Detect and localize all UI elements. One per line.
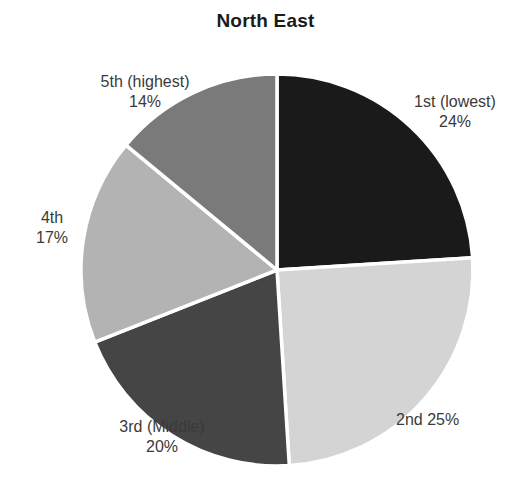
slice-label-4th-value: 17%	[12, 228, 92, 248]
slice-label-2nd-name: 2nd	[396, 411, 423, 428]
slice-label-3rd: 3rd (Middle) 20%	[82, 417, 242, 457]
slice-label-5th-name: 5th (highest)	[70, 72, 220, 92]
slice-label-4th: 4th 17%	[12, 208, 92, 248]
slice-label-1st-name: 1st (lowest)	[390, 92, 520, 112]
slice-label-3rd-value: 20%	[82, 437, 242, 457]
slice-label-1st-value: 24%	[390, 112, 520, 132]
pie-chart: North East 1st (lowest) 24% 2nd 25% 3rd …	[0, 0, 531, 492]
slice-label-2nd-value: 25%	[427, 411, 459, 428]
pie-slices	[81, 74, 473, 466]
slice-label-4th-name: 4th	[12, 208, 92, 228]
slice-label-3rd-name: 3rd (Middle)	[82, 417, 242, 437]
slice-label-5th-value: 14%	[70, 92, 220, 112]
slice-label-2nd: 2nd 25%	[396, 410, 516, 430]
pie-slice	[277, 258, 473, 466]
slice-label-1st: 1st (lowest) 24%	[390, 92, 520, 132]
slice-label-5th: 5th (highest) 14%	[70, 72, 220, 112]
